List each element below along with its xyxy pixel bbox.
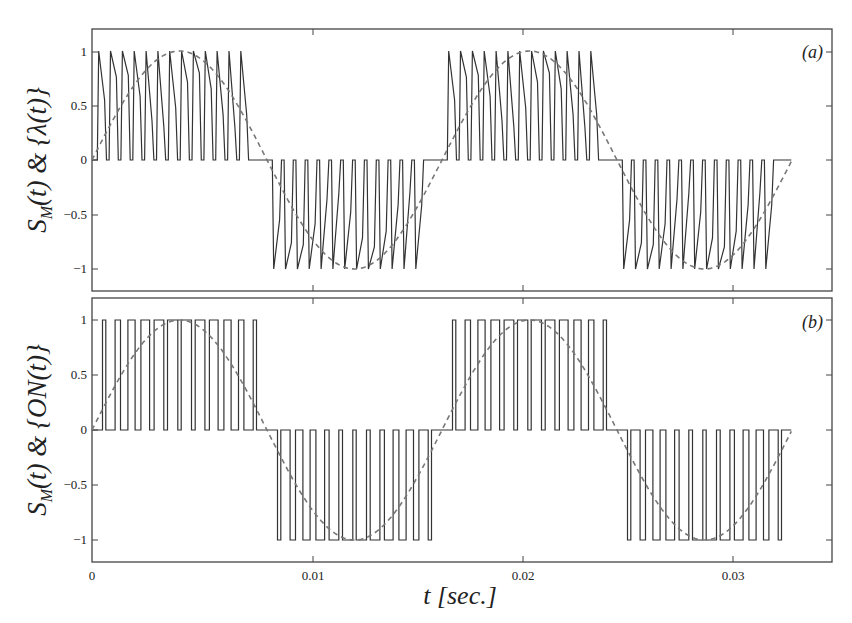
figure: 1 0.5 0 −0.5 −1 (a) SM(t) & {λ(t)} 1 0.5… xyxy=(0,0,852,623)
panel-b-ylabel: SM(t) & {ON(t)} xyxy=(22,344,55,516)
ytick-label: 0.5 xyxy=(71,367,87,382)
ytick-label: −0.5 xyxy=(63,477,87,492)
ytick-label: −1 xyxy=(73,261,87,276)
xtick-label: 0.01 xyxy=(302,568,325,583)
panel-b-switching-signal xyxy=(92,320,791,540)
ytick-label: 1 xyxy=(81,312,88,327)
ytick-label: 0 xyxy=(81,422,88,437)
xtick-label: 0.03 xyxy=(722,568,745,583)
ytick-label: 0.5 xyxy=(71,98,87,113)
ytick-label: 1 xyxy=(81,44,88,59)
panel-b: 1 0.5 0 −0.5 −1 0 0.01 0.02 0.03 (b) SM(… xyxy=(22,298,832,583)
panel-a-reference-sine xyxy=(92,51,791,269)
x-axis-label: t [sec.] xyxy=(423,581,497,610)
ytick-label: 0 xyxy=(81,152,88,167)
panel-a-tag: (a) xyxy=(802,42,823,63)
panel-b-xticks xyxy=(313,298,733,562)
panel-b-tag: (b) xyxy=(802,312,823,333)
panel-a-ylabel: SM(t) & {λ(t)} xyxy=(22,87,55,233)
xtick-label: 0.02 xyxy=(512,568,535,583)
panel-a: 1 0.5 0 −0.5 −1 (a) SM(t) & {λ(t)} xyxy=(22,29,832,291)
ytick-label: −0.5 xyxy=(63,207,87,222)
ytick-label: −1 xyxy=(73,532,87,547)
xtick-label: 0 xyxy=(89,568,96,583)
